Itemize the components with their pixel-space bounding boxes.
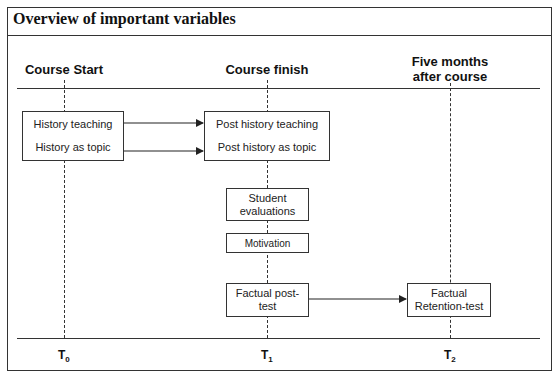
student-evaluations-line2: evaluations	[240, 205, 296, 218]
t1-subscript: 1	[268, 355, 272, 364]
box-factual-post-test: Factual post- test	[226, 283, 309, 317]
post-history-as-topic-label: Post history as topic	[218, 136, 316, 159]
post-history-teaching-label: Post history teaching	[216, 113, 318, 136]
motivation-label: Motivation	[245, 237, 291, 250]
box-student-evaluations: Student evaluations	[226, 188, 309, 221]
history-as-topic-label: History as topic	[35, 136, 110, 159]
box-motivation: Motivation	[226, 233, 309, 253]
t2-label: T2	[444, 348, 456, 364]
factual-post-test-line2: test	[259, 300, 277, 313]
factual-retention-line1: Factual	[431, 287, 467, 300]
box-baseline-history: History teaching History as topic	[22, 111, 124, 161]
t1-label: T1	[261, 348, 273, 364]
t0-subscript: 0	[65, 355, 69, 364]
history-teaching-label: History teaching	[34, 113, 113, 136]
t2-subscript: 2	[451, 355, 455, 364]
factual-post-test-line1: Factual post-	[236, 287, 300, 300]
t0-label: T0	[58, 348, 70, 364]
box-factual-retention-test: Factual Retention-test	[407, 283, 491, 317]
student-evaluations-line1: Student	[249, 192, 287, 205]
box-post-history: Post history teaching Post history as to…	[204, 111, 330, 161]
factual-retention-line2: Retention-test	[415, 300, 483, 313]
